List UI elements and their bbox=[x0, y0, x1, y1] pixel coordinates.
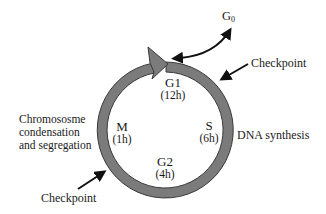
chromosome-condensation-label: Chromososme condensation and segregation bbox=[19, 113, 92, 152]
checkpoint-top-arrow-icon bbox=[222, 64, 248, 79]
checkpoint-bottom-arrow-icon bbox=[78, 172, 104, 189]
phase-g2: G2 (4h) bbox=[150, 156, 180, 180]
diagram-graphics bbox=[0, 0, 326, 214]
phase-g2-duration: (4h) bbox=[150, 168, 180, 180]
phase-g1-name: G1 bbox=[165, 75, 181, 90]
phase-g1: G1 (12h) bbox=[158, 77, 188, 101]
checkpoint-bottom-label: Checkpoint bbox=[41, 192, 96, 204]
phase-m-name: M bbox=[116, 119, 128, 134]
phase-g2-name: G2 bbox=[157, 154, 173, 169]
phase-s-duration: (6h) bbox=[195, 132, 223, 144]
phase-s: S (6h) bbox=[195, 120, 223, 144]
g0-label: G0 bbox=[222, 10, 235, 26]
phase-m: M (1h) bbox=[109, 121, 135, 145]
cell-cycle-diagram: G1 (12h) S (6h) G2 (4h) M (1h) G0 Checkp… bbox=[0, 0, 326, 214]
g0-double-arrow-icon bbox=[180, 30, 230, 58]
dna-synthesis-label: DNA synthesis bbox=[237, 129, 309, 141]
phase-m-duration: (1h) bbox=[109, 133, 135, 145]
phase-s-name: S bbox=[205, 118, 212, 133]
checkpoint-top-label: Checkpoint bbox=[251, 57, 306, 69]
phase-g1-duration: (12h) bbox=[158, 89, 188, 101]
